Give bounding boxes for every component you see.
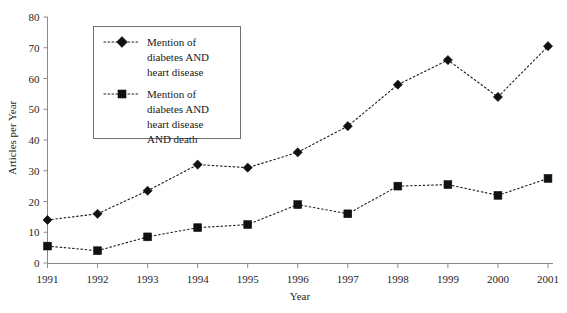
x-axis-title: Year [290, 290, 311, 302]
square-marker-icon [294, 201, 302, 209]
x-tick-label: 1999 [437, 273, 460, 285]
chart-legend: Mention of diabetes AND heart disease Me… [94, 27, 241, 146]
diamond-marker-icon [93, 209, 102, 218]
legend-entry-1-line-1: Mention of [147, 36, 197, 48]
diamond-marker-icon [193, 160, 202, 169]
y-tick-label: 10 [29, 226, 41, 238]
x-tick-label: 1992 [87, 273, 109, 285]
legend-entry-2-line-2: diabetes AND [147, 103, 209, 115]
diamond-marker-icon [43, 215, 52, 224]
diamond-marker-icon [293, 148, 302, 157]
square-marker-icon [544, 175, 552, 183]
legend-entry-2-line-4: AND death [147, 133, 198, 145]
y-tick-label: 0 [34, 257, 40, 269]
legend-entry-2-line-1: Mention of [147, 88, 197, 100]
x-tick-label: 1993 [137, 273, 160, 285]
x-tick-label: 1998 [387, 273, 410, 285]
x-axis-tick-labels: 1991199219931994199519961997199819992000… [37, 273, 560, 285]
x-tick-label: 2000 [487, 273, 510, 285]
square-marker-icon [244, 221, 252, 229]
diamond-marker-icon [443, 55, 452, 64]
square-marker-icon [344, 210, 352, 218]
legend-entry-1-line-2: diabetes AND [147, 51, 209, 63]
square-marker-icon [444, 181, 452, 189]
diamond-marker-icon [143, 186, 152, 195]
x-tick-label: 1991 [37, 273, 59, 285]
square-marker-icon [394, 182, 402, 190]
diamond-marker-icon [393, 80, 402, 89]
legend-entry-1-line-3: heart disease [147, 66, 204, 78]
diamond-marker-icon [243, 163, 252, 172]
x-tick-label: 1995 [237, 273, 260, 285]
y-tick-label: 60 [29, 73, 41, 85]
line-chart: 01020304050607080 1991199219931994199519… [0, 0, 567, 313]
diamond-marker-icon [343, 122, 352, 131]
square-marker-icon [44, 242, 52, 250]
x-tick-label: 1994 [187, 273, 210, 285]
y-axis-tick-labels: 01020304050607080 [29, 11, 41, 269]
series-line-2 [48, 178, 549, 250]
y-tick-label: 80 [29, 11, 41, 23]
y-tick-label: 70 [29, 42, 41, 54]
y-axis-ticks [44, 17, 48, 263]
y-tick-label: 20 [29, 196, 41, 208]
square-marker-icon [118, 90, 126, 98]
chart-container: 01020304050607080 1991199219931994199519… [0, 0, 567, 313]
y-tick-label: 50 [29, 103, 41, 115]
y-axis-title: Articles per Year [6, 100, 18, 175]
y-tick-label: 40 [29, 134, 41, 146]
square-marker-icon [494, 191, 502, 199]
x-tick-label: 2001 [537, 273, 559, 285]
x-tick-label: 1996 [287, 273, 310, 285]
x-tick-label: 1997 [337, 273, 360, 285]
square-marker-icon [94, 247, 102, 255]
legend-entry-2-line-3: heart disease [147, 118, 204, 130]
square-marker-icon [194, 224, 202, 232]
y-tick-label: 30 [29, 165, 41, 177]
square-marker-icon [144, 233, 152, 241]
